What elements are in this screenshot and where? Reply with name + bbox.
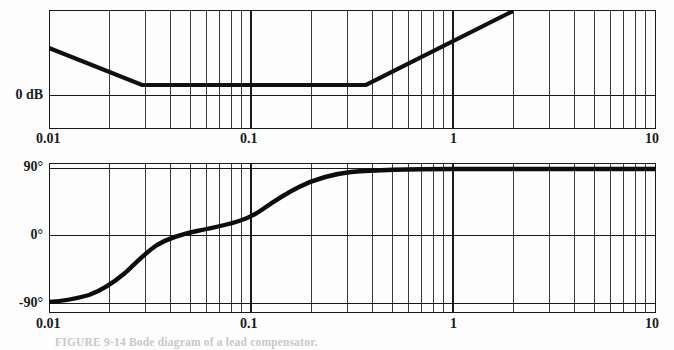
- phase-x-label-0.01: 0.01: [36, 317, 61, 331]
- phase-y-label-0: 0°: [0, 228, 43, 242]
- magnitude-plot-frame: [50, 11, 656, 129]
- magnitude-minor-gridlines: [110, 10, 646, 129]
- phase-plot: [49, 163, 656, 313]
- magnitude-plot: [49, 10, 656, 129]
- phase-x-label-0.1: 0.1: [240, 317, 258, 331]
- phase-minor-gridlines: [110, 163, 646, 313]
- figure-caption: FIGURE 9-14 Bode diagram of a lead compe…: [55, 336, 655, 350]
- phase-y-label-90: 90°: [0, 160, 43, 174]
- magnitude-x-label-0.1: 0.1: [240, 132, 258, 146]
- phase-horizontal-gridlines: [49, 168, 656, 303]
- magnitude-decade-gridlines: [251, 10, 453, 129]
- phase-x-label-10: 10: [645, 317, 659, 331]
- phase-plot-svg: [49, 163, 656, 313]
- magnitude-plot-svg: [49, 10, 656, 129]
- phase-x-label-1: 1: [450, 317, 457, 331]
- magnitude-x-label-0.01: 0.01: [36, 132, 61, 146]
- phase-y-label-minus90: -90°: [0, 296, 43, 310]
- magnitude-y-label-0db: 0 dB: [0, 88, 43, 102]
- magnitude-x-label-1: 1: [450, 132, 457, 146]
- phase-plot-frame: [50, 164, 656, 313]
- phase-decade-gridlines: [251, 163, 453, 313]
- figure-page: 0 dB 0.01 0.1 1 10: [0, 0, 674, 350]
- magnitude-x-label-10: 10: [645, 132, 659, 146]
